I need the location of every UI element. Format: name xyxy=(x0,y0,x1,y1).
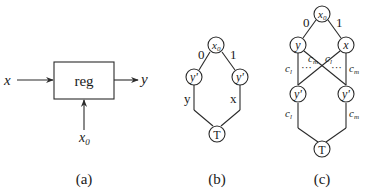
node-y-label: y xyxy=(294,38,301,52)
edge-right-terminal xyxy=(326,128,346,142)
lower-left-label-cl: cl xyxy=(285,107,292,121)
node-terminal-label: T xyxy=(318,143,326,157)
reg-label: reg xyxy=(74,73,94,89)
node-terminal-label: T xyxy=(213,128,221,142)
input-x-label: x xyxy=(3,72,11,88)
caption-b: (b) xyxy=(208,171,226,188)
edge-label-1: 1 xyxy=(336,15,343,30)
diagram-canvas: x reg y x0 (a) x0 0 1 y' y' y x T (b) xyxy=(0,0,367,193)
edge-left-terminal xyxy=(194,110,213,126)
panel-a: x reg y x0 (a) xyxy=(3,62,148,188)
path-label-y: y xyxy=(184,91,191,106)
edge-left-terminal xyxy=(298,128,318,142)
dots-left: ··· xyxy=(301,61,312,73)
output-y-label: y xyxy=(139,71,148,87)
dots-right: ··· xyxy=(331,61,342,73)
control-x0-label: x0 xyxy=(78,130,90,147)
panel-c: x0 0 1 y x cm cl cl ··· ··· cm y' y' cl … xyxy=(285,6,359,188)
path-label-x: x xyxy=(230,91,237,106)
edge-label-0: 0 xyxy=(198,47,205,62)
node-lower-right-label: y' xyxy=(341,87,350,101)
right-vertical-label-cm: cm xyxy=(349,62,359,76)
edge-label-1: 1 xyxy=(230,47,237,62)
left-vertical-label-cl: cl xyxy=(285,62,292,76)
lower-right-label-cm: cm xyxy=(349,107,359,121)
edge-right-terminal xyxy=(221,110,240,126)
caption-a: (a) xyxy=(76,171,93,188)
node-right-label: y' xyxy=(235,70,244,84)
panel-b: x0 0 1 y' y' y x T (b) xyxy=(184,37,248,188)
node-x-label: x xyxy=(342,38,349,52)
node-lower-left-label: y' xyxy=(293,87,302,101)
node-left-label: y' xyxy=(189,70,198,84)
edge-label-0: 0 xyxy=(303,15,310,30)
caption-c: (c) xyxy=(314,171,331,188)
